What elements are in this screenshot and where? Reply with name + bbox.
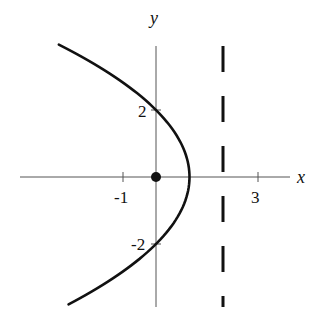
x-tick-label-neg1: -1 <box>114 188 128 207</box>
parabola-diagram: y x -1 3 2 -2 <box>0 0 322 323</box>
focus-point <box>151 172 161 182</box>
y-axis-label: y <box>148 8 158 28</box>
x-tick-label-3: 3 <box>251 188 260 207</box>
parabola-curve <box>59 45 190 305</box>
y-tick-label-neg2: -2 <box>131 235 145 254</box>
y-tick-label-2: 2 <box>138 102 147 121</box>
x-axis-label: x <box>296 167 305 187</box>
